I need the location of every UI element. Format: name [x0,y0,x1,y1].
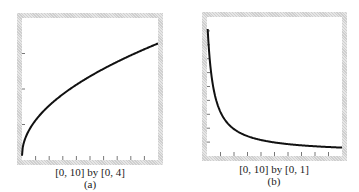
curve [22,43,158,155]
panel-a [17,13,163,165]
plot-a [17,13,163,165]
curve [208,29,342,148]
caption-b-range: [0, 10] by [0, 1] [199,163,349,175]
panel-b [202,12,347,161]
caption-a-label: (a) [15,178,165,190]
plot-b [202,12,347,161]
caption-b-label: (b) [199,175,349,187]
caption-a-range: [0, 10] by [0, 4] [15,166,165,178]
